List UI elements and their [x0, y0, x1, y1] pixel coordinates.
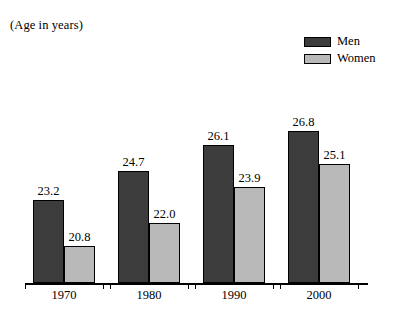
x-axis-tick	[280, 285, 281, 289]
x-axis-label-1990: 1990	[193, 289, 275, 302]
bar-value-women-1970: 20.8	[58, 231, 101, 244]
plot-area: 23.220.8197024.722.0198026.123.9199026.8…	[0, 0, 393, 317]
bar-women-1970	[64, 246, 95, 283]
bar-value-women-1990: 23.9	[228, 172, 271, 185]
x-axis-tick	[195, 285, 196, 289]
bar-men-1980	[118, 171, 149, 283]
x-axis-label-2000: 2000	[278, 289, 360, 302]
bar-men-1990	[203, 145, 234, 283]
bar-women-2000	[319, 164, 350, 283]
bar-value-men-1980: 24.7	[112, 156, 155, 169]
x-axis-tick	[188, 285, 189, 289]
x-axis-tick	[25, 285, 26, 289]
bar-value-women-1980: 22.0	[143, 208, 186, 221]
bar-value-women-2000: 25.1	[313, 149, 356, 162]
bar-value-men-1970: 23.2	[27, 185, 70, 198]
x-axis-label-1970: 1970	[23, 289, 105, 302]
bar-women-1980	[149, 223, 180, 283]
x-axis-tick	[103, 285, 104, 289]
x-axis-line	[25, 283, 368, 285]
bar-value-men-1990: 26.1	[197, 130, 240, 143]
x-axis-label-1980: 1980	[108, 289, 190, 302]
x-axis-tick	[273, 285, 274, 289]
bar-chart-figure: (Age in years) Men Women 23.220.8197024.…	[0, 0, 393, 317]
bar-women-1990	[234, 187, 265, 283]
x-axis-tick	[358, 285, 359, 289]
bar-value-men-2000: 26.8	[282, 116, 325, 129]
x-axis-tick	[110, 285, 111, 289]
